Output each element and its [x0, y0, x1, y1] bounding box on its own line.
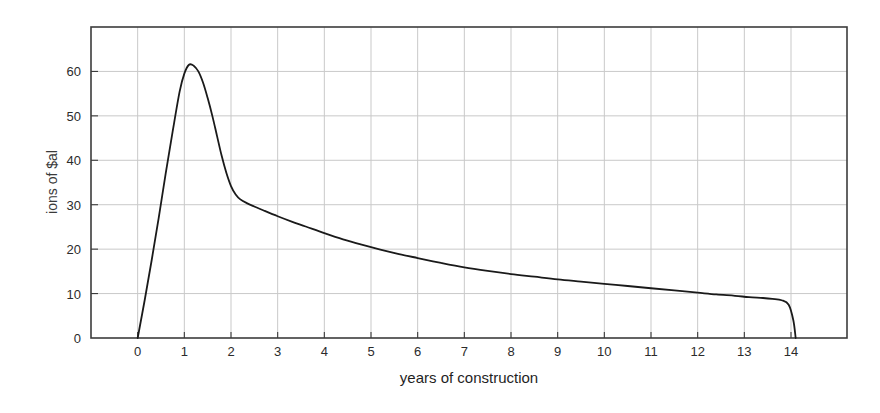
x-tick-label: 14: [784, 344, 798, 359]
x-tick-label: 12: [690, 344, 704, 359]
x-tick-label: 11: [644, 344, 658, 359]
y-axis-title: ions of $al: [44, 150, 60, 214]
x-tick-label: 13: [737, 344, 751, 359]
x-tick-label: 7: [461, 344, 468, 359]
x-axis-tick-labels: 01234567891011121314: [134, 344, 798, 359]
x-tick-label: 10: [597, 344, 611, 359]
line-chart: 01234567891011121314 0102030405060 years…: [0, 0, 880, 413]
y-tick-label: 60: [67, 64, 81, 79]
y-tick-label: 20: [67, 242, 81, 257]
x-tick-label: 4: [321, 344, 328, 359]
x-tick-label: 9: [554, 344, 561, 359]
y-tick-label: 0: [74, 331, 81, 346]
x-tick-label: 1: [181, 344, 188, 359]
x-tick-label: 8: [507, 344, 514, 359]
y-tick-label: 40: [67, 153, 81, 168]
x-tick-label: 3: [274, 344, 281, 359]
x-axis-title: years of construction: [400, 369, 538, 386]
y-tick-label: 50: [67, 109, 81, 124]
x-tick-label: 5: [367, 344, 374, 359]
x-tick-label: 2: [227, 344, 234, 359]
x-tick-label: 6: [414, 344, 421, 359]
chart-container: 01234567891011121314 0102030405060 years…: [0, 0, 880, 413]
y-tick-label: 30: [67, 198, 81, 213]
y-axis-title-group: ions of $al: [44, 150, 60, 214]
x-tick-label: 0: [134, 344, 141, 359]
y-tick-label: 10: [67, 287, 81, 302]
